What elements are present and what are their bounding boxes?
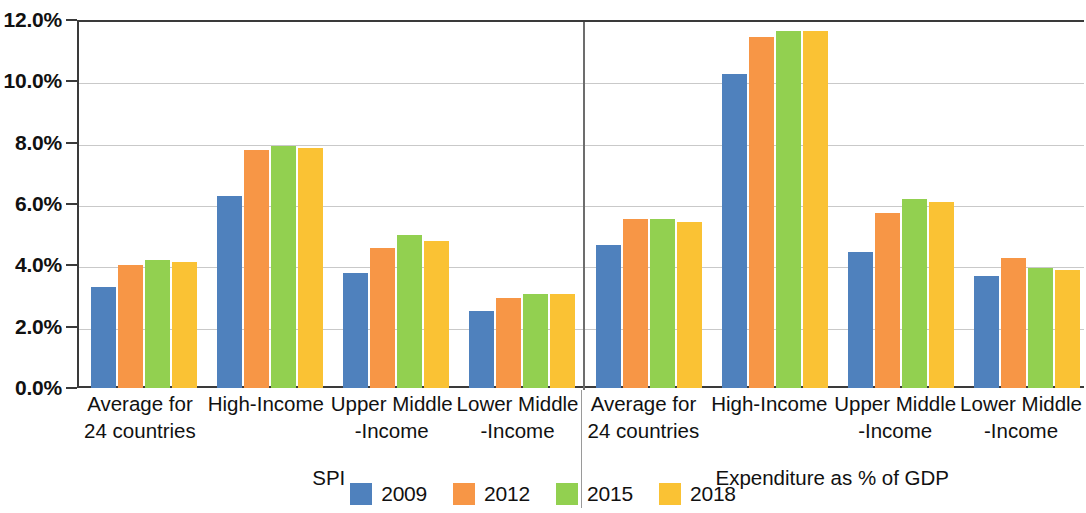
y-axis-tick-label: 0.0%: [15, 376, 62, 400]
bar: [623, 219, 648, 388]
category-label-band: Average for 24 countriesHigh-IncomeUpper…: [77, 390, 1084, 475]
legend-item[interactable]: 2012: [453, 482, 530, 506]
bar: [1028, 268, 1053, 388]
grouped-bar-chart: 0.0%2.0%4.0%6.0%8.0%10.0%12.0% Average f…: [0, 0, 1086, 513]
bar: [974, 276, 999, 388]
category-label: Average for 24 countries: [77, 390, 203, 444]
bar: [271, 146, 296, 388]
y-axis-tick-label: 4.0%: [15, 253, 62, 277]
y-axis-tick-label: 12.0%: [3, 8, 62, 32]
bar: [848, 252, 873, 388]
legend-swatch-icon: [659, 483, 681, 505]
y-axis-tick-mark: [66, 80, 77, 82]
y-axis-tick-mark: [66, 142, 77, 144]
y-axis-tick-mark: [66, 203, 77, 205]
legend-item[interactable]: 2009: [350, 482, 427, 506]
legend-item[interactable]: 2018: [659, 482, 736, 506]
bar: [596, 245, 621, 388]
legend-label: 2018: [690, 482, 736, 506]
bar: [217, 196, 242, 388]
y-axis-tick-mark: [66, 264, 77, 266]
legend-swatch-icon: [350, 483, 372, 505]
bar: [875, 213, 900, 388]
y-axis-tick-label: 6.0%: [15, 192, 62, 216]
category-label: High-Income: [203, 390, 329, 417]
bar: [1001, 258, 1026, 388]
bar: [424, 241, 449, 388]
bar: [523, 294, 548, 388]
category-label: Lower Middle -Income: [455, 390, 581, 444]
bar: [803, 31, 828, 388]
y-axis-tick-mark: [66, 326, 77, 328]
bar: [91, 287, 116, 388]
bar: [776, 31, 801, 388]
bar: [298, 148, 323, 388]
chart-legend: 2009201220152018: [0, 482, 1086, 506]
y-axis: 0.0%2.0%4.0%6.0%8.0%10.0%12.0%: [0, 0, 72, 513]
bar: [902, 199, 927, 388]
legend-label: 2009: [381, 482, 427, 506]
y-axis-tick-label: 10.0%: [3, 69, 62, 93]
category-label: Lower Middle -Income: [958, 390, 1084, 444]
legend-swatch-icon: [556, 483, 578, 505]
bars-layer: [77, 20, 1084, 388]
bar: [370, 248, 395, 388]
bar: [550, 294, 575, 388]
legend-label: 2015: [587, 482, 633, 506]
y-axis-tick-mark: [66, 387, 77, 389]
bar: [244, 150, 269, 388]
bar: [172, 262, 197, 388]
bar: [677, 222, 702, 388]
bar: [397, 235, 422, 388]
legend-label: 2012: [484, 482, 530, 506]
bar: [749, 37, 774, 388]
category-label: Average for 24 countries: [581, 390, 707, 444]
bar: [722, 74, 747, 388]
legend-swatch-icon: [453, 483, 475, 505]
bar: [1055, 270, 1080, 388]
bar: [118, 265, 143, 388]
y-axis-tick-mark: [66, 19, 77, 21]
bar: [343, 273, 368, 388]
bar: [650, 219, 675, 388]
category-label: High-Income: [706, 390, 832, 417]
y-axis-tick-label: 8.0%: [15, 131, 62, 155]
category-label: Upper Middle -Income: [832, 390, 958, 444]
category-label: Upper Middle -Income: [329, 390, 455, 444]
bar: [469, 311, 494, 388]
bar: [496, 298, 521, 388]
legend-item[interactable]: 2015: [556, 482, 633, 506]
bar: [145, 260, 170, 388]
y-axis-tick-label: 2.0%: [15, 315, 62, 339]
bar: [929, 202, 954, 388]
